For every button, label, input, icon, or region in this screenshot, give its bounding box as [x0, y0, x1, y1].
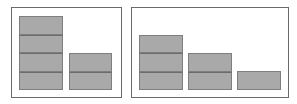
block-segment — [139, 53, 183, 71]
block-segment — [19, 16, 63, 35]
block-segment — [19, 35, 63, 54]
block-segment — [69, 72, 112, 91]
right-panel-stack-1 — [139, 35, 183, 90]
block-segment — [69, 53, 112, 72]
block-segment — [19, 72, 63, 91]
block-segment — [188, 53, 232, 72]
block-segment — [139, 72, 183, 90]
left-panel-stack-2 — [69, 53, 112, 90]
block-segment — [188, 72, 232, 91]
block-segment — [237, 71, 281, 90]
block-segment — [19, 53, 63, 72]
left-panel-stack-1 — [19, 16, 63, 90]
right-panel-stack-3 — [237, 71, 281, 90]
right-panel-stack-2 — [188, 53, 232, 90]
block-segment — [139, 35, 183, 53]
